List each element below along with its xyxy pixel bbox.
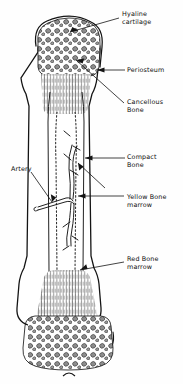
label-periosteum: Periosteum <box>127 66 164 74</box>
label-cancellous-bone: Cancellous Bone <box>127 98 163 114</box>
red-bone-marrow-trabeculae <box>28 312 138 376</box>
distal-notch <box>63 373 75 376</box>
label-hyaline-cartilage: Hyaline cartilage <box>122 10 151 26</box>
label-compact-bone: Compact Bone <box>127 153 157 169</box>
bone-anatomy-figure: Hyaline cartilage Periosteum Cancellous … <box>0 0 183 384</box>
bone-diagram-svg <box>0 0 183 384</box>
label-yellow-bone-marrow: Yellow Bone marrow <box>127 193 167 209</box>
label-artery: Artery <box>11 165 32 173</box>
label-red-bone-marrow: Red Bone marrow <box>127 255 159 271</box>
